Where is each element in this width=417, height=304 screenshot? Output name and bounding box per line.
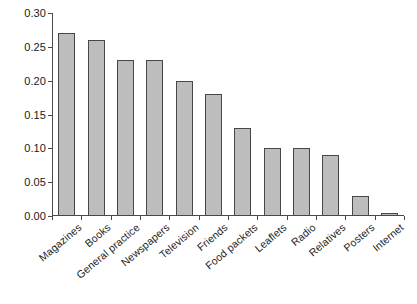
y-tick-mark <box>48 47 52 48</box>
x-tick-mark <box>287 216 288 220</box>
bar <box>146 60 163 216</box>
x-tick-label: Radio <box>289 221 318 248</box>
bar <box>88 40 105 216</box>
x-tick-label: Relatives <box>306 221 347 259</box>
bar-series <box>52 13 404 216</box>
x-tick-label: Food packets <box>202 221 259 271</box>
x-tick-label: Books <box>82 221 112 249</box>
bar <box>322 155 339 216</box>
y-tick-label: 0.00 <box>24 210 46 222</box>
bar <box>352 196 369 216</box>
bar <box>381 213 398 216</box>
y-tick-label: 0.25 <box>24 41 46 53</box>
bar <box>58 33 75 216</box>
x-tick-mark <box>228 216 229 220</box>
x-tick-mark <box>199 216 200 220</box>
bar <box>264 148 281 216</box>
x-tick-mark <box>111 216 112 220</box>
x-tick-label: Television <box>157 221 201 260</box>
x-tick-label: Leaflets <box>252 221 288 254</box>
x-tick-mark <box>140 216 141 220</box>
x-tick-label: Posters <box>341 221 377 254</box>
x-tick-label: General practice <box>74 221 142 281</box>
y-tick-label: 0.30 <box>24 7 46 19</box>
x-tick-label: Internet <box>370 221 406 254</box>
y-tick-label: 0.15 <box>24 109 46 121</box>
x-tick-mark <box>257 216 258 220</box>
y-tick-mark <box>48 115 52 116</box>
x-tick-mark <box>81 216 82 220</box>
y-tick-mark <box>48 13 52 14</box>
x-tick-mark <box>169 216 170 220</box>
y-tick-mark <box>48 148 52 149</box>
chart-figure: 0.000.050.100.150.200.250.30 MagazinesBo… <box>0 0 417 304</box>
plot-area: 0.000.050.100.150.200.250.30 <box>52 13 404 216</box>
x-tick-label: Friends <box>195 221 230 253</box>
x-tick-label: Newspapers <box>118 221 171 268</box>
bar <box>117 60 134 216</box>
bar <box>205 94 222 216</box>
y-tick-mark <box>48 81 52 82</box>
x-tick-mark <box>316 216 317 220</box>
x-tick-mark <box>52 216 53 220</box>
bar <box>293 148 310 216</box>
x-tick-mark <box>345 216 346 220</box>
x-tick-label: Magazines <box>36 221 83 263</box>
y-tick-label: 0.10 <box>24 142 46 154</box>
y-tick-label: 0.05 <box>24 176 46 188</box>
y-tick-mark <box>48 182 52 183</box>
x-tick-mark <box>375 216 376 220</box>
y-tick-label: 0.20 <box>24 75 46 87</box>
bar <box>176 81 193 216</box>
x-tick-mark <box>404 216 405 220</box>
bar <box>234 128 251 216</box>
